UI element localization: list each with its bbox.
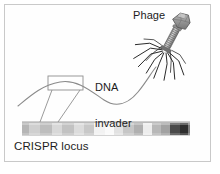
figure-container: Phage DNA invader CRISPR locus: [0, 0, 220, 174]
phage-tail-fibers: [126, 37, 190, 90]
dna-strand-icon: [18, 67, 156, 106]
phage-label: Phage: [133, 9, 165, 21]
leader-line-icon: [40, 90, 80, 122]
dna-invader-label-line2: invader: [95, 117, 132, 129]
dna-invader-label: DNA invader: [95, 57, 132, 153]
dna-invader-label-line1: DNA: [95, 81, 132, 93]
crispr-locus-label: CRISPR locus: [14, 140, 89, 152]
